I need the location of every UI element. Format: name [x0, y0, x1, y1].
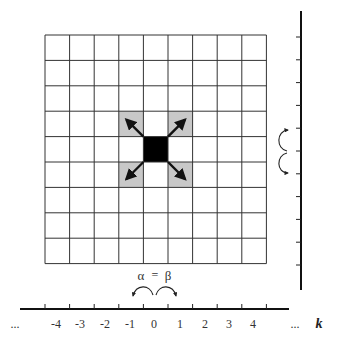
tick-label: -4 [51, 317, 61, 332]
tick-label: -2 [100, 317, 110, 332]
tick-label: 4 [250, 317, 256, 332]
tick-label: 1 [177, 317, 183, 332]
axis-label-k: k [316, 316, 323, 332]
vertical-axis [279, 11, 301, 290]
horizontal-axis [20, 287, 289, 309]
tick-label-ellipsis-right: ... [291, 317, 300, 332]
hop-right-arrow-icon [156, 287, 176, 296]
occupied-center-cell [143, 137, 168, 162]
tick-label: 3 [226, 317, 232, 332]
hop-down-arrow-icon [279, 153, 288, 173]
equals-label: = [152, 268, 159, 283]
beta-label: β [165, 268, 172, 284]
hop-up-arrow-icon [279, 130, 288, 151]
tick-label-ellipsis-left: ... [11, 317, 20, 332]
hop-left-arrow-icon [133, 287, 153, 296]
lattice-diagram [0, 0, 338, 340]
tick-label: 2 [202, 317, 208, 332]
tick-label: 0 [151, 317, 157, 332]
tick-label: -3 [75, 317, 85, 332]
alpha-label: α [138, 268, 145, 284]
tick-label: -1 [125, 317, 135, 332]
